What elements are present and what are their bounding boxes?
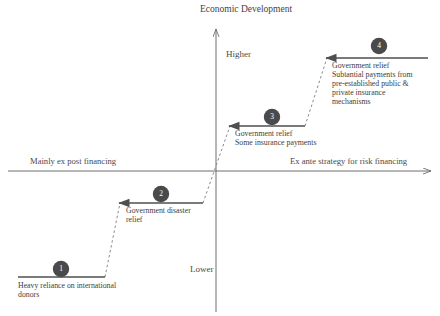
step-2-note: Government disaster relief — [126, 206, 191, 224]
y-axis-title: Economic Development — [200, 4, 292, 15]
step-4-note: Government relief Subtantial payments fr… — [332, 61, 413, 106]
x-axis-left-label: Mainly ex post financing — [30, 157, 116, 167]
y-axis-lower-label: Lower — [190, 264, 214, 274]
dashed-riser-1-2 — [105, 203, 120, 277]
step-badge-2[interactable] — [153, 186, 169, 202]
step-1-note: Heavy reliance on international donors — [18, 281, 116, 299]
step-3-note: Government relief Some insurance payment… — [235, 129, 316, 147]
diagram-canvas: 1 2 3 4 Economic Development Higher Lowe… — [0, 0, 440, 316]
step-badge-1[interactable] — [53, 261, 69, 277]
step-badge-3[interactable] — [264, 109, 280, 125]
dashed-riser-3-4 — [305, 58, 327, 126]
y-axis-higher-label: Higher — [226, 49, 251, 59]
step-badge-4[interactable] — [371, 38, 387, 54]
x-axis-right-label: Ex ante strategy for risk financing — [290, 157, 407, 167]
